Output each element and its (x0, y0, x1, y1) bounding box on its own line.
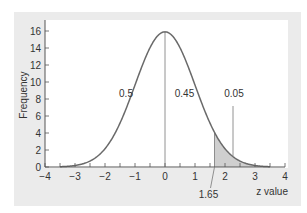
critical-value-leader (211, 167, 215, 188)
y-tick-label: 10 (30, 77, 42, 88)
area-label: 0.05 (224, 88, 244, 99)
y-tick-label: 4 (35, 128, 41, 139)
y-tick-label: 6 (35, 111, 41, 122)
x-tick-label: −2 (99, 171, 111, 182)
tick-labels: 0246810121416−4−3−2−101234 (30, 26, 288, 183)
x-tick-label: 2 (222, 171, 228, 182)
x-tick-label: −3 (69, 171, 81, 182)
x-axis-label: z value (256, 186, 288, 197)
annotations: 0.50.450.051.65 (119, 88, 244, 200)
normal-distribution-chart: 0246810121416−4−3−2−101234 0.50.450.051.… (0, 0, 307, 213)
x-tick-label: −4 (39, 171, 51, 182)
y-tick-label: 8 (35, 94, 41, 105)
y-tick-label: 16 (30, 26, 42, 37)
y-tick-label: 14 (30, 43, 42, 54)
y-tick-label: 12 (30, 60, 42, 71)
x-tick-label: 3 (252, 171, 258, 182)
y-axis-label: Frequency (18, 71, 29, 118)
y-tick-label: 2 (35, 145, 41, 156)
x-tick-label: 4 (282, 171, 288, 182)
area-label: 0.45 (175, 88, 195, 99)
critical-value-label: 1.65 (199, 189, 219, 200)
x-tick-label: −1 (129, 171, 141, 182)
x-tick-label: 0 (162, 171, 168, 182)
x-tick-label: 1 (192, 171, 198, 182)
axes (45, 20, 285, 167)
area-label: 0.5 (119, 88, 133, 99)
